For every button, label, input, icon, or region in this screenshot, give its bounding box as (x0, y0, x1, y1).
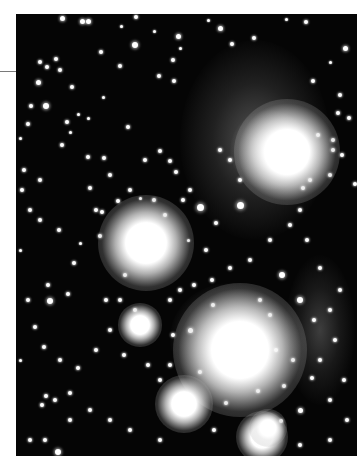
star (305, 238, 309, 242)
star (58, 68, 62, 72)
star (146, 363, 150, 367)
star (153, 30, 156, 33)
star (38, 178, 42, 182)
star (58, 358, 62, 362)
star (318, 266, 322, 270)
star (228, 158, 232, 162)
star (288, 223, 292, 227)
star (43, 103, 49, 109)
star (340, 153, 344, 157)
star (128, 428, 132, 432)
star (168, 363, 172, 367)
star (86, 19, 91, 24)
star (88, 408, 92, 412)
star (38, 60, 42, 64)
star (28, 208, 32, 212)
star (353, 182, 357, 186)
star (204, 248, 208, 252)
star (118, 298, 122, 302)
star (54, 57, 58, 61)
margin-rule-line (0, 71, 17, 72)
star (45, 65, 49, 69)
star (60, 143, 64, 147)
star (53, 398, 57, 402)
star (19, 359, 22, 362)
star (36, 80, 41, 85)
star (94, 348, 98, 352)
star (158, 438, 162, 442)
star (102, 156, 106, 160)
star (68, 418, 72, 422)
star (345, 418, 349, 422)
star (312, 318, 316, 322)
star (44, 394, 48, 398)
star (304, 20, 308, 24)
star (80, 19, 85, 24)
star (99, 50, 103, 54)
star (26, 122, 30, 126)
star (94, 208, 98, 212)
star (43, 438, 47, 442)
star (311, 79, 315, 83)
bright-star (234, 99, 340, 205)
star (157, 74, 161, 78)
star (19, 137, 22, 140)
star (40, 403, 44, 407)
star (66, 292, 70, 296)
star (57, 228, 61, 232)
star (65, 120, 69, 124)
bright-star (98, 195, 194, 291)
star (181, 198, 185, 202)
star (86, 155, 90, 159)
star (297, 297, 303, 303)
star (158, 378, 162, 382)
star (178, 288, 182, 292)
star (55, 449, 61, 455)
star (158, 149, 162, 153)
star (38, 218, 42, 222)
star (237, 202, 244, 209)
star-cluster-photograph (16, 14, 357, 456)
star (329, 61, 332, 64)
star (207, 19, 210, 22)
star (197, 204, 204, 211)
star (33, 325, 37, 329)
star (336, 111, 340, 115)
star (192, 283, 196, 287)
star (87, 117, 90, 120)
star (102, 96, 105, 99)
star (347, 116, 351, 120)
star (214, 221, 218, 225)
star (210, 278, 214, 282)
star (228, 266, 232, 270)
star (285, 18, 288, 21)
star (168, 298, 172, 302)
star (212, 428, 216, 432)
star (26, 298, 30, 302)
star (248, 258, 252, 262)
star (279, 272, 285, 278)
star (338, 93, 342, 97)
star (29, 104, 33, 108)
star (108, 173, 112, 177)
star (218, 148, 222, 152)
star (230, 42, 234, 46)
star (46, 283, 50, 287)
star (328, 308, 332, 312)
star (342, 378, 346, 382)
star (328, 398, 332, 402)
star (118, 64, 122, 68)
star (122, 353, 126, 357)
star (47, 298, 53, 304)
star (126, 125, 130, 129)
star (104, 298, 108, 302)
bright-star (155, 375, 213, 433)
star (328, 438, 332, 442)
star (298, 443, 302, 447)
star (76, 366, 80, 370)
star (174, 170, 178, 174)
star (100, 210, 104, 214)
star (20, 188, 24, 192)
star (310, 376, 314, 380)
star (108, 418, 112, 422)
